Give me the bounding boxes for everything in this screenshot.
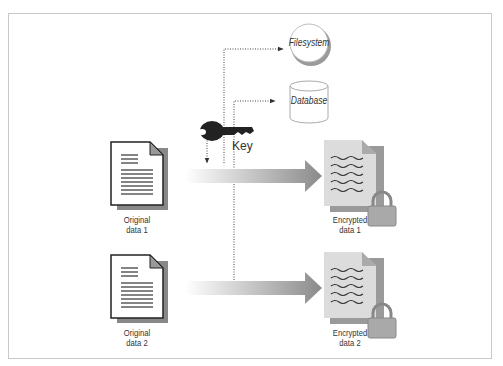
encrypted-data-1-line2: data 1 (329, 225, 372, 235)
encrypted-doc-2-icon (324, 252, 384, 324)
encrypted-data-2-line1: Encrypted (329, 328, 372, 338)
encrypted-data-1-line1: Encrypted (329, 215, 372, 225)
encrypted-data-2-line2: data 2 (329, 338, 372, 348)
key-label: Key (232, 139, 253, 153)
original-data-2-line1: Original (116, 328, 159, 338)
database-label: Database (288, 96, 331, 106)
encrypted-data-1-label: Encrypted data 1 (329, 215, 372, 235)
key-connector-lines (207, 49, 283, 280)
key-icon (198, 121, 254, 141)
encrypted-doc-1-icon (324, 140, 384, 212)
original-data-2-line2: data 2 (116, 338, 159, 348)
encrypt-arrow-2 (185, 272, 322, 304)
original-doc-2-icon (111, 255, 168, 323)
original-data-1-label: Original data 1 (116, 215, 159, 235)
encrypted-data-2-label: Encrypted data 2 (329, 328, 372, 348)
original-doc-1-icon (111, 142, 168, 210)
original-data-1-line1: Original (116, 215, 159, 225)
filesystem-label: Filesystem (288, 38, 331, 48)
diagram-canvas (0, 0, 503, 366)
original-data-2-label: Original data 2 (116, 328, 159, 348)
original-data-1-line2: data 1 (116, 225, 159, 235)
encrypt-arrow-1 (185, 160, 322, 192)
